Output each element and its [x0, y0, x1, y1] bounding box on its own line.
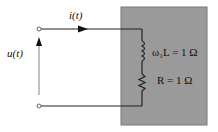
resistor-label: R = 1 Ω — [157, 74, 192, 86]
voltage-arrow-icon — [36, 37, 42, 46]
inductor-label: ω₁L = 1 Ω — [152, 46, 198, 58]
current-arrow-icon — [78, 26, 88, 33]
load-box — [121, 7, 207, 125]
current-label: i(t) — [69, 9, 83, 22]
bottom-terminal-icon — [37, 104, 41, 108]
top-terminal-icon — [37, 27, 41, 31]
circuit-diagram: i(t) u(t) ω₁L = 1 Ω R = 1 Ω — [0, 0, 218, 132]
voltage-label: u(t) — [7, 47, 23, 60]
